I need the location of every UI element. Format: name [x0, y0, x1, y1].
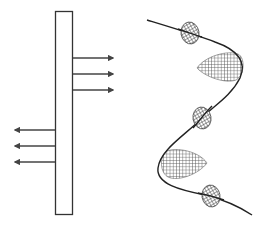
left-arrows [15, 130, 55, 162]
helix-group [147, 20, 252, 215]
slab-group [15, 12, 113, 215]
lower-cone-lobe [161, 150, 207, 179]
vertical-slab [56, 12, 73, 215]
diagram-canvas [0, 0, 271, 228]
upper-cone-lobe [197, 53, 243, 81]
right-arrows [73, 58, 113, 90]
diagram-svg [0, 0, 271, 228]
